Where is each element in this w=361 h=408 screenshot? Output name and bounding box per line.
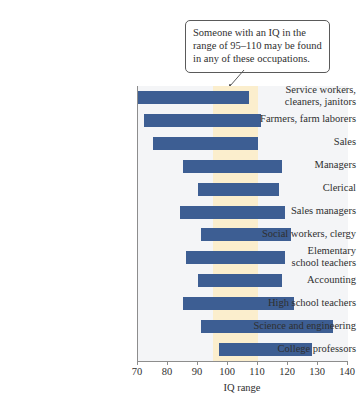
category-label-line: College professors <box>224 343 356 355</box>
category-label-line: Service workers, <box>224 84 356 96</box>
category-label-line: school teachers <box>224 257 356 269</box>
category-label-5: Clerical <box>224 182 356 194</box>
x-axis-line <box>137 361 347 362</box>
x-tick-130 <box>317 361 318 365</box>
x-tick-70 <box>137 361 138 365</box>
category-label-line: Social workers, clergy <box>224 228 356 240</box>
category-label-6: Sales managers <box>224 205 356 217</box>
category-label-line: Clerical <box>224 182 356 194</box>
category-label-line: Elementary <box>224 245 356 257</box>
category-label-11: Science and engineering <box>224 320 356 332</box>
x-tick-100 <box>227 361 228 365</box>
x-tick-120 <box>287 361 288 365</box>
category-label-line: cleaners, janitors <box>224 96 356 108</box>
category-label-8: Elementaryschool teachers <box>224 245 356 269</box>
category-label-line: Sales <box>224 136 356 148</box>
category-label-7: Social workers, clergy <box>224 228 356 240</box>
category-label-line: Managers <box>224 159 356 171</box>
category-label-line: Sales managers <box>224 205 356 217</box>
x-tick-label-100: 100 <box>212 366 242 377</box>
x-tick-label-80: 80 <box>152 366 182 377</box>
x-tick-label-130: 130 <box>302 366 332 377</box>
x-tick-80 <box>167 361 168 365</box>
category-label-line: Science and engineering <box>224 320 356 332</box>
category-label-3: Sales <box>224 136 356 148</box>
x-tick-140 <box>347 361 348 365</box>
x-tick-label-140: 140 <box>332 366 361 377</box>
category-label-line: Farmers, farm laborers <box>224 113 356 125</box>
category-label-line: Accounting <box>224 274 356 286</box>
x-tick-label-120: 120 <box>272 366 302 377</box>
category-label-12: College professors <box>224 343 356 355</box>
x-tick-label-90: 90 <box>182 366 212 377</box>
callout-line-3: in any of these occupations. <box>193 52 322 65</box>
category-label-2: Farmers, farm laborers <box>224 113 356 125</box>
category-label-9: Accounting <box>224 274 356 286</box>
x-tick-110 <box>257 361 258 365</box>
x-axis-label: IQ range <box>137 382 347 393</box>
callout-line-2: range of 95–110 may be found <box>193 39 322 52</box>
category-label-line: High school teachers <box>224 297 356 309</box>
category-label-4: Managers <box>224 159 356 171</box>
iq-range-callout: Someone with an IQ in the range of 95–11… <box>185 20 330 73</box>
category-label-1: Service workers,cleaners, janitors <box>224 84 356 108</box>
x-tick-label-110: 110 <box>242 366 272 377</box>
x-tick-label-70: 70 <box>122 366 152 377</box>
category-label-10: High school teachers <box>224 297 356 309</box>
callout-line-1: Someone with an IQ in the <box>193 26 322 39</box>
x-tick-90 <box>197 361 198 365</box>
